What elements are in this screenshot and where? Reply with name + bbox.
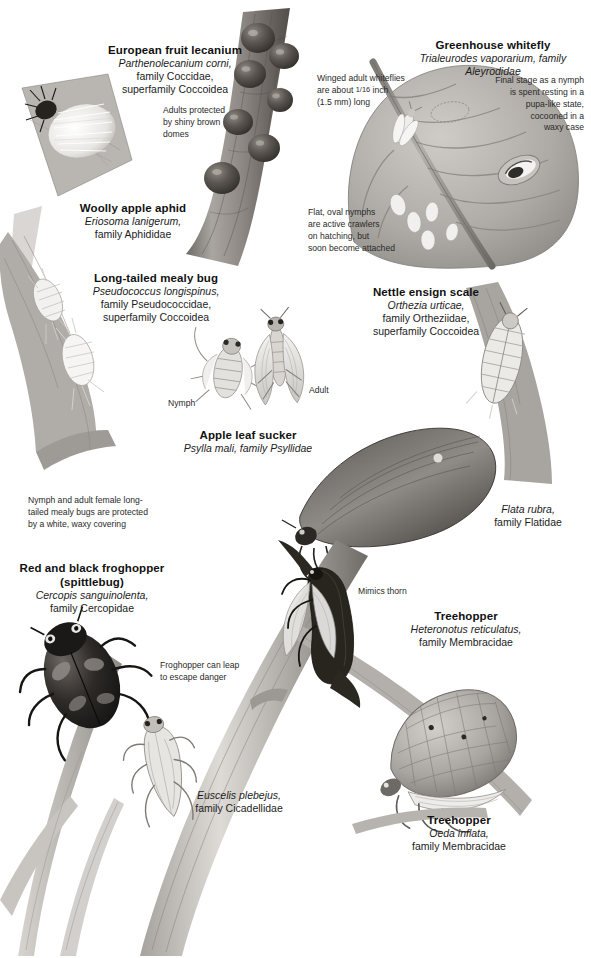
- common-name: Nettle ensign scale: [351, 285, 501, 299]
- family-name: family Ortheziidae,: [351, 312, 501, 325]
- superfamily-name: superfamily Coccoidea: [100, 83, 250, 96]
- family-name: family Coccidae,: [100, 70, 250, 83]
- note-mimics-thorn: Mimics thorn: [358, 586, 407, 596]
- note-whitefly-size: Winged adult whiteflies are about 1/16 i…: [317, 73, 413, 109]
- scientific-name: Euscelis plebejus,: [172, 789, 306, 802]
- art-long-tailed-mealy-bug: [0, 232, 116, 470]
- scientific-name: Cercopis sanguinolenta,: [8, 589, 176, 602]
- label-greenhouse-whitefly: Greenhouse whitefly Trialeurodes vaporar…: [395, 38, 591, 78]
- note-whitefly-crawlers: Flat, oval nymphs are active crawlers on…: [308, 207, 422, 254]
- label-woolly-apple-aphid: Woolly apple aphid Eriosoma lanigerum, f…: [58, 201, 208, 241]
- common-name: Red and black froghopper: [8, 561, 176, 575]
- common-name: Woolly apple aphid: [58, 201, 208, 215]
- common-name: Long-tailed mealy bug: [73, 271, 239, 285]
- illustration-plate: European fruit lecanium Parthenolecanium…: [0, 0, 591, 958]
- family-name: family Cicadellidae: [172, 802, 306, 815]
- family-name: family Aphididae: [58, 228, 208, 241]
- label-red-and-black-froghopper: Red and black froghopper (spittlebug) Ce…: [8, 561, 176, 615]
- whitefly-size-line1: Winged adult whiteflies: [317, 73, 405, 83]
- note-mealybug-wax-covering: Nymph and adult female long- tailed meal…: [28, 495, 178, 531]
- scientific-name: Eriosoma lanigerum,: [58, 215, 208, 228]
- whitefly-size-line2-pre: are about: [317, 85, 353, 95]
- label-treehopper-heteronotus: Treehopper Heteronotus reticulatus, fami…: [383, 609, 549, 649]
- common-name-alt: (spittlebug): [8, 575, 176, 589]
- family-name: family Pseudococcidae,: [73, 298, 239, 311]
- note-froghopper-leap: Froghopper can leap to escape danger: [160, 660, 270, 684]
- label-european-fruit-lecanium: European fruit lecanium Parthenolecanium…: [100, 43, 250, 95]
- scientific-name: Parthenolecanium corni,: [100, 57, 250, 70]
- common-name: Greenhouse whitefly: [395, 38, 591, 52]
- common-name: European fruit lecanium: [100, 43, 250, 57]
- note-whitefly-pupal-stage: Final stage as a nymph is spent resting …: [466, 75, 584, 134]
- whitefly-size-line2-post: inch: [373, 85, 389, 95]
- note-psyllid-adult: Adult: [309, 385, 329, 395]
- family-name: family Membracidae: [381, 840, 537, 853]
- note-lecanium-domes: Adults protected by shiny brown domes: [163, 105, 263, 141]
- superfamily-name: superfamily Coccoidea: [73, 311, 239, 324]
- label-treehopper-oeda: Treehopper Oeda inflata, family Membraci…: [381, 813, 537, 853]
- common-name: Treehopper: [381, 813, 537, 827]
- family-name: family Flatidae: [478, 516, 578, 529]
- label-flata-rubra: Flata rubra, family Flatidae: [478, 503, 578, 529]
- family-name: family Cercopidae: [8, 602, 176, 615]
- label-nettle-ensign-scale: Nettle ensign scale Orthezia urticae, fa…: [351, 285, 501, 337]
- scientific-name: Pseudococcus longispinus,: [73, 285, 239, 298]
- label-apple-leaf-sucker: Apple leaf sucker Psylla mali, family Ps…: [178, 428, 318, 455]
- label-long-tailed-mealy-bug: Long-tailed mealy bug Pseudococcus longi…: [73, 271, 239, 323]
- common-name: Apple leaf sucker: [178, 428, 318, 442]
- note-psyllid-nymph: Nymph: [168, 398, 195, 408]
- family-name: family Membracidae: [383, 636, 549, 649]
- scientific-name: Oeda inflata,: [381, 827, 537, 840]
- whitefly-size-fraction: 1/16: [356, 85, 370, 95]
- whitefly-size-metric: (1.5 mm) long: [317, 97, 370, 107]
- scientific-name: Orthezia urticae,: [351, 299, 501, 312]
- scientific-name: Psylla mali, family Psyllidae: [178, 442, 318, 455]
- superfamily-name: superfamily Coccoidea: [351, 325, 501, 338]
- common-name: Treehopper: [383, 609, 549, 623]
- label-euscelis-plebejus: Euscelis plebejus, family Cicadellidae: [172, 789, 306, 815]
- scientific-name: Heteronotus reticulatus,: [383, 623, 549, 636]
- scientific-name: Flata rubra,: [478, 503, 578, 516]
- scientific-name: Trialeurodes vaporarium, family Aleyrodi…: [395, 52, 591, 78]
